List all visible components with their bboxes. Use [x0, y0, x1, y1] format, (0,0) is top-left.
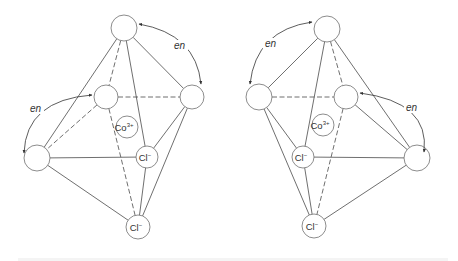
- atom-circle: [94, 85, 118, 109]
- en-ligand-label: en: [265, 38, 277, 49]
- en-ligand-label: en: [174, 40, 186, 51]
- atom-circle: [314, 16, 340, 42]
- cl-atom-cl-bottom: Cl−: [302, 214, 326, 238]
- atom-circle: [24, 145, 50, 171]
- ligand-atom-top: [111, 15, 137, 41]
- bond-cl-mid-cl-bottom: [140, 168, 146, 215]
- bond-right-cl-mid: [154, 107, 185, 149]
- bond-top-back-right-dashed: [331, 42, 343, 86]
- ligand-atom-right: [180, 85, 204, 109]
- charge-superscript: −: [315, 221, 319, 227]
- ligand-atom-left: [24, 145, 50, 171]
- charge-superscript: 3+: [127, 122, 134, 128]
- charge-superscript: −: [304, 152, 308, 158]
- en-ligand-label: en: [30, 103, 42, 114]
- charge-superscript: 3+: [323, 120, 330, 126]
- bond-left-cl-mid: [50, 157, 136, 158]
- right-isomer: Co3+Cl−Cl−enen: [246, 16, 430, 238]
- ligand-atom-back-left: [94, 85, 118, 109]
- en-ligand-label: en: [406, 102, 418, 113]
- bond-right-cl-mid: [314, 157, 404, 158]
- ligand-atom-left: [246, 84, 272, 110]
- co-atom-co: Co3+: [311, 114, 335, 136]
- atom-circle: [180, 85, 204, 109]
- bond-left-cl-bottom: [48, 165, 128, 220]
- bond-back-left-left-dashed: [47, 105, 97, 149]
- atom-circle: [111, 15, 137, 41]
- bond-left-cl-mid: [267, 108, 297, 149]
- ligand-atom-right: [404, 145, 430, 171]
- left-isomer: Co3+Cl−Cl−enen: [24, 15, 204, 239]
- co-atom-co: Co3+: [115, 116, 139, 138]
- cl-atom-cl-mid: Cl−: [136, 146, 158, 168]
- octahedral-complex-diagram: Co3+Cl−Cl−enenCo3+Cl−Cl−enen: [0, 0, 458, 261]
- charge-superscript: −: [148, 152, 152, 158]
- atom-circle: [246, 84, 272, 110]
- atom-circle: [334, 85, 358, 109]
- diagram-canvas: Co3+Cl−Cl−enenCo3+Cl−Cl−enen: [0, 0, 458, 261]
- ligand-atom-top: [314, 16, 340, 42]
- atom-circle: [404, 145, 430, 171]
- cl-atom-cl-mid: Cl−: [292, 146, 314, 168]
- ligand-atom-back-right: [334, 85, 358, 109]
- bond-right-cl-bottom: [324, 165, 406, 219]
- bond-back-right-right: [355, 105, 407, 150]
- charge-superscript: −: [139, 222, 143, 228]
- cl-atom-cl-bottom: Cl−: [126, 215, 150, 239]
